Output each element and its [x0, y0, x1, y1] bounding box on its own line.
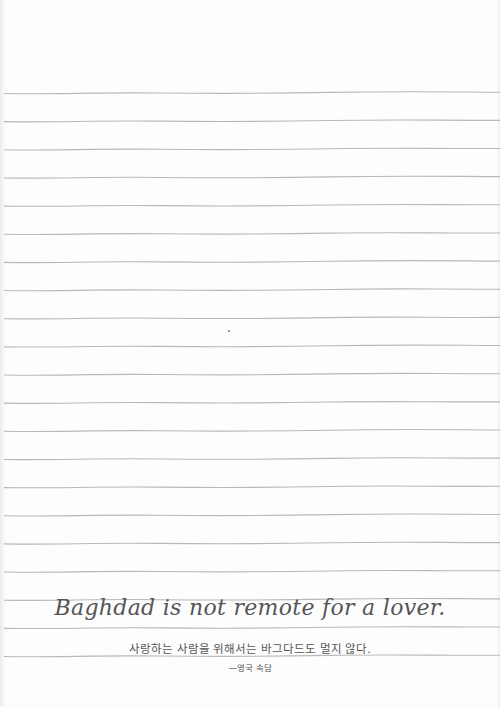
quote-english: Baghdad is not remote for a lover. [0, 595, 500, 620]
ruled-line [4, 204, 500, 206]
ruled-line [4, 148, 500, 150]
ruled-line [4, 429, 500, 431]
ruled-line [4, 458, 500, 460]
quote-attribution: —영국 속담 [0, 661, 500, 673]
ruled-line [4, 402, 500, 404]
ruled-line [4, 120, 500, 122]
stray-dot [228, 330, 230, 332]
ruled-line [4, 317, 500, 319]
ruled-line [4, 176, 500, 178]
ruled-line [4, 514, 500, 516]
ruled-line [4, 570, 500, 572]
quote-korean: 사랑하는 사람을 위해서는 바그다드도 멀지 않다. [0, 640, 500, 656]
ruled-line [4, 627, 500, 629]
ruled-line [4, 289, 500, 291]
ruled-line [4, 542, 500, 544]
ruled-line [4, 373, 500, 375]
ruled-line [4, 233, 500, 235]
ruled-line [4, 261, 500, 263]
ruled-line [4, 345, 500, 347]
ruled-line [4, 92, 500, 94]
ruled-line [4, 486, 500, 488]
